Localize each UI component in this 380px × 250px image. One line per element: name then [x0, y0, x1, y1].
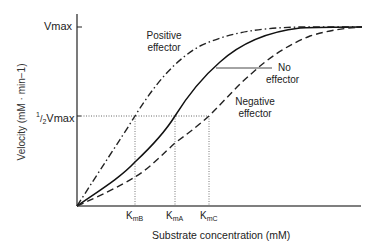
y-axis-title: Velocity (mM · min−1) — [16, 64, 27, 161]
half-vmax-label: 1/2Vmax — [36, 109, 74, 128]
positive-effector-annotation: Positive effector — [144, 30, 184, 54]
no-line2: effector — [266, 74, 299, 86]
vmax-label: Vmax — [44, 20, 72, 32]
no-line1: No — [275, 62, 299, 74]
no-effector-curve — [77, 27, 362, 206]
negative-effector-annotation: Negative effector — [230, 96, 280, 120]
kma-sub: mA — [173, 215, 184, 222]
kmc-k: K — [200, 210, 207, 221]
x-axis-title: Substrate concentration (mM) — [152, 229, 290, 241]
negative-line2: effector — [230, 108, 280, 120]
positive-line2: effector — [144, 42, 184, 54]
positive-line1: Positive — [144, 30, 184, 42]
negative-line1: Negative — [230, 96, 280, 108]
kmb-sub: mB — [133, 215, 144, 222]
negative-effector-curve — [77, 27, 362, 206]
positive-effector-curve — [77, 27, 362, 206]
kma-k: K — [166, 210, 173, 221]
kma-label: KmA — [166, 210, 183, 225]
kmb-label: KmB — [126, 210, 143, 225]
half-vmax-text: Vmax — [46, 112, 74, 124]
kmc-label: KmC — [200, 210, 218, 225]
kmc-sub: mC — [207, 215, 218, 222]
no-effector-annotation: No effector — [275, 62, 299, 86]
kmb-k: K — [126, 210, 133, 221]
